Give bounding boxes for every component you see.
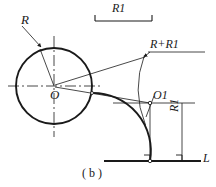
leader-line-R [22,26,41,47]
technical-drawing-figure: R R1 R+R1 O O1 R1 L ( b ) [0,0,216,187]
radius-line-R [40,49,54,86]
figure-caption: ( b ) [82,166,102,181]
leader-arrow-R-plus-R1 [144,52,150,57]
label-center-O: O [50,88,59,101]
point-marker-O1 [148,101,151,104]
construction-arc-R-plus-R1 [138,55,145,125]
label-dimension-R1-top: R1 [112,2,125,14]
drawing-canvas [0,0,216,187]
label-line-L: L [203,152,210,164]
label-radius-R: R [21,13,29,26]
label-sum-R-plus-R1: R+R1 [150,38,179,50]
label-center-O1: O1 [153,89,168,101]
point-marker-tangent-on-circle [91,92,94,95]
leader-line-R-plus-R1 [55,57,145,85]
leader-line-O-to-O1 [55,87,150,103]
point-marker-tangent-on-L [148,159,151,162]
label-dimension-R1-side: R1 [168,99,180,112]
